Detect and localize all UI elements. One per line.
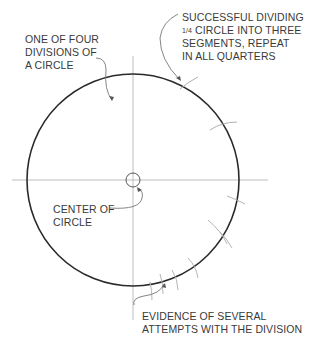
label-line: EVIDENCE OF SEVERAL (142, 310, 302, 323)
leader-lines (96, 14, 180, 305)
label-evidence-of-attempts: EVIDENCE OF SEVERAL ATTEMPTS WITH THE DI… (142, 310, 302, 336)
label-one-of-four-divisions: ONE OF FOUR DIVISIONS OF A CIRCLE (25, 33, 99, 72)
label-line: ONE OF FOUR (25, 33, 99, 46)
label-line: ATTEMPTS WITH THE DIVISION (142, 323, 302, 336)
leader-arrowheads (109, 76, 181, 288)
label-line: SEGMENTS, REPEAT (182, 37, 304, 50)
label-center-of-circle: CENTER OF CIRCLE (53, 203, 115, 229)
label-line: CENTER OF (53, 203, 115, 216)
fraction-one-quarter: 1/4 (182, 27, 192, 34)
label-line: DIVISIONS OF (25, 46, 99, 59)
label-text: CIRCLE INTO THREE (195, 24, 301, 36)
label-line: CIRCLE (53, 216, 115, 229)
label-line: 1/4 CIRCLE INTO THREE (182, 24, 304, 37)
label-line: SUCCESSFUL DIVIDING (182, 11, 304, 24)
label-line: A CIRCLE (25, 59, 99, 72)
label-successful-dividing: SUCCESSFUL DIVIDING 1/4 CIRCLE INTO THRE… (182, 11, 304, 63)
label-line: IN ALL QUARTERS (182, 50, 304, 63)
division-arcs-upper-right (180, 77, 237, 130)
